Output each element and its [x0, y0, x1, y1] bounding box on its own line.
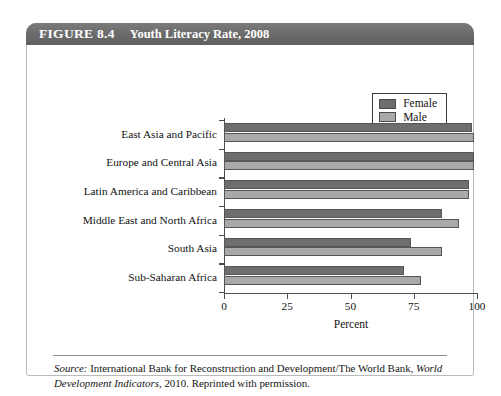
bar-group: Latin America and Caribbean	[224, 180, 477, 209]
y-axis-tick	[219, 149, 224, 150]
category-label: Europe and Central Asia	[106, 157, 217, 168]
figure-number: FIGURE 8.4	[39, 26, 115, 42]
source-text-part2: , 2010. Reprinted with permission.	[159, 377, 310, 389]
bar-male	[224, 219, 459, 228]
bar-male	[224, 276, 421, 285]
bar-female	[224, 152, 474, 161]
x-axis-tick	[414, 294, 415, 299]
category-label: Sub-Saharan Africa	[128, 272, 217, 283]
y-axis-tick	[219, 235, 224, 236]
x-axis-tick-label: 0	[221, 301, 227, 312]
source-divider	[53, 355, 447, 356]
x-axis-tick	[287, 294, 288, 299]
y-axis-tick	[219, 177, 224, 178]
bar-male	[224, 133, 474, 142]
x-axis-tick-label: 25	[282, 301, 293, 312]
bar-female	[224, 123, 472, 132]
category-label: Middle East and North Africa	[83, 215, 217, 226]
category-label: Latin America and Caribbean	[84, 186, 217, 197]
category-label: South Asia	[168, 243, 217, 254]
source-text-part1: International Bank for Reconstruction an…	[87, 362, 416, 374]
figure-container: FIGURE 8.4 Youth Literacy Rate, 2008 Fem…	[26, 23, 474, 376]
chart-canvas: FemaleMale East Asia and PacificEurope a…	[27, 46, 473, 346]
plot-area: East Asia and PacificEurope and Central …	[27, 46, 473, 346]
bar-female	[224, 209, 442, 218]
source-note: Source: International Bank for Reconstru…	[54, 361, 449, 390]
x-axis-tick-label: 50	[345, 301, 356, 312]
y-axis-tick	[219, 120, 224, 121]
bar-group: Sub-Saharan Africa	[224, 266, 477, 295]
x-axis-tick	[477, 294, 478, 299]
bar-female	[224, 180, 469, 189]
source-prefix: Source:	[54, 362, 87, 374]
y-axis-tick	[219, 263, 224, 264]
bar-group: South Asia	[224, 238, 477, 267]
bar-female	[224, 238, 411, 247]
y-axis-tick	[219, 292, 224, 293]
bar-group: East Asia and Pacific	[224, 123, 477, 152]
figure-title: Youth Literacy Rate, 2008	[130, 27, 270, 42]
bar-group: Europe and Central Asia	[224, 152, 477, 181]
x-axis-tick	[224, 294, 225, 299]
x-axis-tick-label: 75	[408, 301, 419, 312]
y-axis-tick	[219, 206, 224, 207]
x-axis-tick-label: 100	[469, 301, 486, 312]
bar-male	[224, 161, 474, 170]
bar-male	[224, 247, 442, 256]
x-axis-tick	[351, 294, 352, 299]
bars-container: East Asia and PacificEurope and Central …	[224, 120, 477, 292]
x-axis-title: Percent	[224, 318, 478, 330]
bar-male	[224, 190, 469, 199]
bar-female	[224, 266, 404, 275]
category-label: East Asia and Pacific	[121, 129, 217, 140]
figure-header-banner: FIGURE 8.4 Youth Literacy Rate, 2008	[26, 23, 474, 45]
bar-group: Middle East and North Africa	[224, 209, 477, 238]
